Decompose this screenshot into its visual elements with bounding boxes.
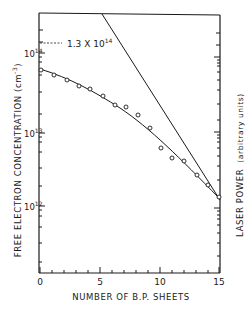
data-point [101,94,105,98]
data-point [217,195,221,199]
data-points [39,68,221,199]
x-tick-label-0: 0 [37,277,43,287]
data-point [113,103,117,107]
data-point [52,73,56,77]
fit-curve [40,69,219,198]
data-point [39,68,43,72]
plot-frame [39,13,220,273]
data-point [77,84,81,88]
data-point [170,156,174,160]
x-tick-label-10: 10 [154,277,166,287]
data-point [148,126,152,130]
x-axis-title: NUMBER OF B.P. SHEETS [72,292,189,302]
data-point [136,113,140,117]
chart: 1.3 X 1014 1014 1013 1012 0 5 10 15 NUMB… [0,0,250,309]
y-axis-right-ticks [214,33,220,256]
data-point [195,173,199,177]
data-point [65,78,69,82]
data-point [206,183,210,187]
x-tick-label-5: 5 [97,277,103,287]
y-axis-right-title: LASER POWER(arbitrary units) [235,93,245,237]
data-point [124,105,128,109]
x-axis-ticks [40,267,219,273]
y-axis-left-ticks [39,30,45,262]
data-point [159,146,163,150]
y-axis-left-title: FREE ELECTRON CONCENTRATION (cm-3) [11,63,23,257]
laser-power-line [102,14,220,200]
data-point [88,87,92,91]
annotation-label: 1.3 X 1014 [67,37,112,49]
data-point [182,159,186,163]
x-tick-label-15: 15 [213,277,224,287]
